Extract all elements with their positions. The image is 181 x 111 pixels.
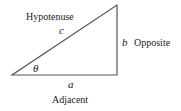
opposite-label: Opposite — [134, 37, 171, 48]
hypotenuse-var: c — [59, 24, 64, 36]
right-triangle-diagram: Hypotenuse c b Opposite θ a Adjacent — [0, 0, 181, 111]
opposite-var: b — [122, 36, 128, 48]
hypotenuse-label: Hypotenuse — [26, 11, 74, 22]
adjacent-label: Adjacent — [52, 94, 88, 105]
adjacent-var: a — [68, 78, 74, 90]
angle-theta: θ — [33, 62, 39, 74]
